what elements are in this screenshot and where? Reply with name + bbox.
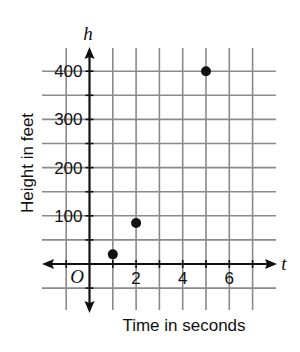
scatter-chart: 246100200300400 h t O Time in seconds He… [0,0,300,352]
data-point [108,249,118,259]
x-tick-label: 4 [178,269,187,288]
y-axis-title: Height in feet [18,113,37,213]
x-tick-label: 2 [131,269,140,288]
origin-label: O [70,266,84,287]
y-tick-label: 200 [54,159,82,178]
y-axis-variable-label: h [83,23,93,44]
data-point [131,218,141,228]
x-axis-variable-label: t [281,253,287,274]
x-axis-title: Time in seconds [122,316,245,335]
y-tick-label: 100 [54,207,82,226]
x-tick-label: 6 [225,269,234,288]
y-tick-label: 400 [54,62,82,81]
data-point [201,66,211,76]
y-tick-label: 300 [54,110,82,129]
